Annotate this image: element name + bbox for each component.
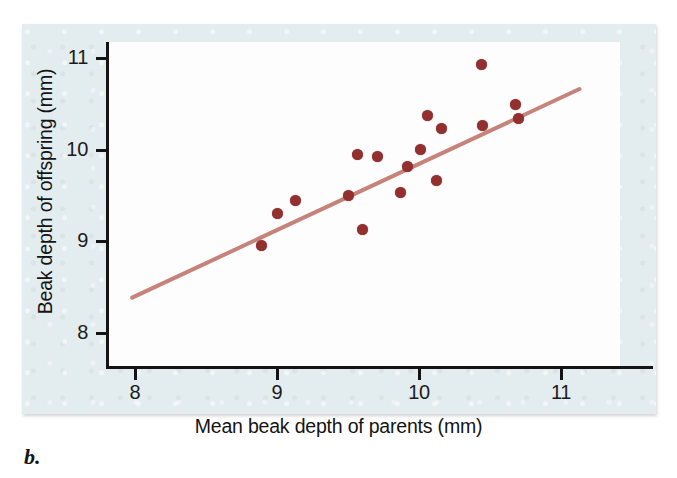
data-point (513, 113, 524, 124)
data-point (436, 123, 447, 134)
scatter-plot-figure: 11 10 9 8 8 9 10 11 Beak depth of offspr… (0, 0, 677, 478)
data-point (256, 240, 267, 251)
data-point (357, 224, 368, 235)
x-tick-mark-11 (560, 369, 563, 380)
x-tick-label-9: 9 (257, 381, 297, 404)
data-point (272, 208, 283, 219)
y-tick-mark-10 (96, 149, 107, 152)
x-axis-line (106, 366, 653, 369)
x-tick-label-10: 10 (399, 381, 439, 404)
y-tick-mark-9 (96, 240, 107, 243)
data-point (431, 175, 442, 186)
figure-caption: b. (24, 444, 41, 470)
x-axis-title: Mean beak depth of parents (mm) (0, 415, 677, 438)
x-tick-mark-8 (134, 369, 137, 380)
y-tick-mark-8 (96, 332, 107, 335)
data-point (422, 110, 433, 121)
x-tick-label-11: 11 (541, 381, 581, 404)
data-point (476, 59, 487, 70)
x-tick-mark-10 (418, 369, 421, 380)
data-point (343, 190, 354, 201)
y-tick-mark-11 (96, 57, 107, 60)
x-tick-label-8: 8 (115, 381, 155, 404)
y-axis-line (106, 42, 109, 369)
data-point (395, 187, 406, 198)
y-axis-title: Beak depth of offspring (mm) (34, 32, 57, 352)
plot-area (108, 42, 620, 368)
data-point (415, 144, 426, 155)
x-tick-mark-9 (276, 369, 279, 380)
